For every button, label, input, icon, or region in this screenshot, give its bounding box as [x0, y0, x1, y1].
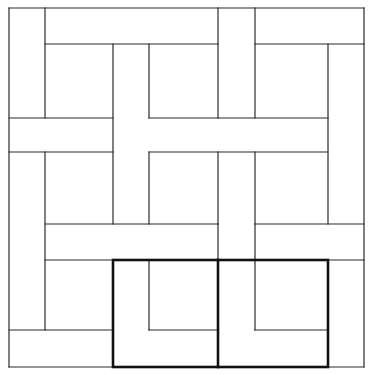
- highlighted-region: [113, 260, 328, 367]
- tiling-diagram: [0, 0, 375, 375]
- pattern-lines: [9, 8, 364, 367]
- highlight-rectangle: [113, 260, 328, 367]
- pattern-svg: [0, 0, 375, 375]
